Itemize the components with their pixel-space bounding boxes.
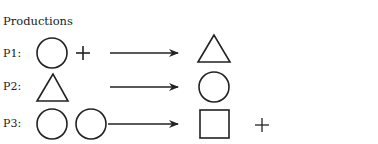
productions-diagram bbox=[0, 0, 378, 144]
circle-icon bbox=[199, 72, 229, 102]
plus-icon bbox=[76, 46, 90, 60]
circle-icon bbox=[76, 109, 106, 139]
circle-icon bbox=[37, 109, 67, 139]
triangle-icon bbox=[37, 74, 68, 101]
circle-icon bbox=[37, 38, 67, 68]
triangle-icon bbox=[198, 35, 230, 62]
plus-icon bbox=[255, 118, 269, 132]
square-icon bbox=[200, 110, 229, 138]
production-p2 bbox=[37, 72, 229, 102]
production-p3 bbox=[37, 109, 269, 139]
production-p1 bbox=[37, 35, 230, 68]
